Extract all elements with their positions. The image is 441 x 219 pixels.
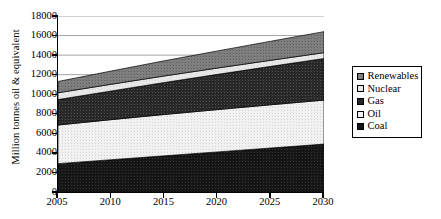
legend-item-label: Coal — [368, 120, 388, 133]
legend-swatch-icon — [357, 123, 364, 130]
legend-swatch-icon — [357, 85, 364, 92]
x-tick-mark — [163, 193, 164, 198]
legend-item-oil[interactable]: Oil — [357, 108, 417, 121]
x-tick-mark — [110, 193, 111, 198]
chart-figure: Million tonnes oil & equivalent 02000400… — [0, 0, 441, 219]
legend-swatch-icon — [357, 98, 364, 105]
x-tick-mark — [56, 193, 57, 198]
x-tick-mark — [269, 193, 270, 198]
x-tick-mark — [322, 193, 323, 198]
legend-item-label: Nuclear — [368, 83, 401, 96]
legend-item-renewables[interactable]: Renewables — [357, 70, 417, 83]
legend-item-gas[interactable]: Gas — [357, 95, 417, 108]
chart-legend: RenewablesNuclearGasOilCoal — [352, 66, 422, 138]
legend-swatch-icon — [357, 111, 364, 118]
legend-item-nuclear[interactable]: Nuclear — [357, 83, 417, 96]
legend-swatch-icon — [357, 73, 364, 80]
legend-item-label: Oil — [368, 108, 381, 121]
legend-item-label: Gas — [368, 95, 384, 108]
x-tick-mark — [216, 193, 217, 198]
legend-item-label: Renewables — [368, 70, 419, 83]
legend-item-coal[interactable]: Coal — [357, 120, 417, 133]
